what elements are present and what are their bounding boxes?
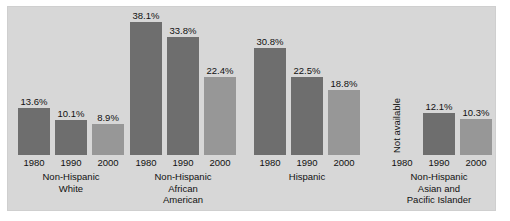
bar-2000[interactable] — [328, 90, 360, 155]
bar-group-3: 30.8%22.5%18.8%198019902000Hispanic — [254, 7, 360, 210]
year-axis: 198019902000 — [254, 157, 360, 169]
bar-value-label: 38.1% — [124, 10, 168, 21]
year-axis: 198019902000 — [386, 157, 492, 169]
year-tick-1990: 1990 — [423, 157, 455, 169]
bar-value-label: 8.9% — [86, 112, 130, 123]
year-tick-1980: 1980 — [386, 157, 418, 169]
year-tick-2000: 2000 — [328, 157, 360, 169]
bar-2000[interactable] — [92, 124, 124, 155]
bar-group-plot: 13.6%10.1%8.9% — [18, 7, 124, 155]
bar-value-label: 13.6% — [12, 96, 56, 107]
group-caption-line: American — [90, 194, 276, 206]
bar-value-label: 30.8% — [248, 36, 292, 47]
bar-slot-2000[interactable]: 8.9% — [92, 7, 124, 155]
not-available-text: Not available — [391, 98, 402, 153]
bar-slot-1990[interactable]: 33.8% — [167, 7, 199, 155]
year-tick-2000: 2000 — [204, 157, 236, 169]
bar-2000[interactable] — [460, 119, 492, 155]
bar-value-label: 18.8% — [322, 78, 366, 89]
bar-slot-2000[interactable]: 18.8% — [328, 7, 360, 155]
chart-panel: 13.6%10.1%8.9%198019902000Non-HispanicWh… — [8, 7, 495, 210]
bar-1990[interactable] — [291, 77, 323, 155]
bar-value-label: 33.8% — [161, 25, 205, 36]
group-caption-line: Asian and — [346, 183, 510, 195]
year-tick-2000: 2000 — [460, 157, 492, 169]
bar-slot-1990[interactable]: 22.5% — [291, 7, 323, 155]
year-axis: 198019902000 — [18, 157, 124, 169]
bar-1980[interactable] — [254, 48, 286, 155]
year-tick-1990: 1990 — [55, 157, 87, 169]
group-caption: Non-HispanicAsian andPacific Islander — [346, 171, 510, 206]
bar-slot-1980[interactable]: 13.6% — [18, 7, 50, 155]
year-tick-2000: 2000 — [92, 157, 124, 169]
bar-group-plot: 38.1%33.8%22.4% — [130, 7, 236, 155]
bar-value-label: 22.4% — [198, 65, 242, 76]
bar-value-label: 22.5% — [285, 65, 329, 76]
bar-2000[interactable] — [204, 77, 236, 155]
group-caption-line: African — [90, 183, 276, 195]
bar-1990[interactable] — [423, 113, 455, 155]
group-caption-line: Non-Hispanic — [346, 171, 510, 183]
bar-value-label: 10.3% — [454, 107, 498, 118]
bar-slot-1980[interactable]: 30.8% — [254, 7, 286, 155]
bar-slot-2000[interactable]: 22.4% — [204, 7, 236, 155]
year-axis: 198019902000 — [130, 157, 236, 169]
year-tick-1980: 1980 — [18, 157, 50, 169]
year-tick-1990: 1990 — [291, 157, 323, 169]
bar-group-plot: 30.8%22.5%18.8% — [254, 7, 360, 155]
bar-group-plot: Not available12.1%10.3% — [386, 7, 492, 155]
bar-1980[interactable] — [18, 108, 50, 155]
bar-1990[interactable] — [55, 120, 87, 155]
year-tick-1980: 1980 — [130, 157, 162, 169]
chart-screenshot: 13.6%10.1%8.9%198019902000Non-HispanicWh… — [0, 0, 510, 221]
bar-1990[interactable] — [167, 37, 199, 155]
bar-slot-2000[interactable]: 10.3% — [460, 7, 492, 155]
bar-group-4: Not available12.1%10.3%198019902000Non-H… — [386, 7, 492, 210]
not-available-note: Not available — [386, 63, 418, 153]
bar-slot-1990[interactable]: 12.1% — [423, 7, 455, 155]
bar-slot-1990[interactable]: 10.1% — [55, 7, 87, 155]
group-caption-line: Pacific Islander — [346, 194, 510, 206]
bar-slot-1980[interactable]: Not available — [386, 7, 418, 155]
bar-slot-1980[interactable]: 38.1% — [130, 7, 162, 155]
year-tick-1990: 1990 — [167, 157, 199, 169]
bar-1980[interactable] — [130, 22, 162, 155]
year-tick-1980: 1980 — [254, 157, 286, 169]
